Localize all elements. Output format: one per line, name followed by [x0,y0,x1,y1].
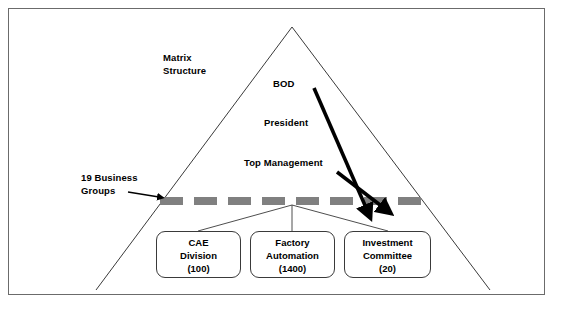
factory-automation-box[interactable]: Factory Automation (1400) [250,231,335,278]
cae-division-count: (100) [157,262,240,275]
investment-committee-box[interactable]: Investment Committee (20) [344,231,431,278]
cae-division-box[interactable]: CAE Division (100) [156,231,241,278]
factory-automation-line1: Factory [251,236,334,249]
cae-division-line1: CAE [157,236,240,249]
investment-committee-count: (20) [345,262,430,275]
bod-label: BOD [273,78,294,91]
connector-to-cae [198,205,292,231]
matrix-structure-label: Matrix Structure [163,52,206,77]
president-label: President [264,117,308,130]
business-groups-label: 19 Business Groups [81,172,138,197]
investment-committee-line2: Committee [345,249,430,262]
diagram-page: Matrix Structure BOD President Top Manag… [0,0,562,311]
top-management-label: Top Management [244,157,323,170]
investment-committee-line1: Investment [345,236,430,249]
factory-automation-count: (1400) [251,262,334,275]
cae-division-line2: Division [157,249,240,262]
factory-automation-line2: Automation [251,249,334,262]
connector-to-investment [292,205,388,231]
emphasis-arrow-from-bod [314,88,367,210]
